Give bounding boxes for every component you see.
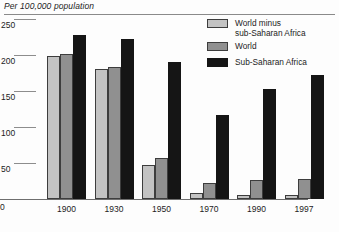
bar bbox=[121, 39, 134, 199]
bar bbox=[108, 67, 121, 199]
bar bbox=[203, 183, 216, 199]
x-axis-line bbox=[0, 199, 308, 200]
bar bbox=[216, 115, 229, 199]
bar bbox=[237, 195, 250, 199]
x-axis-tick-label: 1930 bbox=[94, 204, 134, 214]
chart-container: Per 100,000 population World minus sub-S… bbox=[0, 0, 339, 232]
y-axis-tick-label: 200 bbox=[1, 56, 25, 66]
plot-area: 50100150200250 0 19001930195019701990199… bbox=[25, 19, 333, 199]
bar-group bbox=[142, 19, 181, 199]
bar bbox=[95, 69, 108, 199]
header-divider bbox=[4, 14, 335, 15]
x-axis-tick-label: 1997 bbox=[284, 204, 324, 214]
bar-group bbox=[95, 19, 134, 199]
bar bbox=[250, 180, 263, 199]
bar bbox=[47, 56, 60, 199]
bar bbox=[298, 179, 311, 199]
y-axis-unit-label: Per 100,000 population bbox=[4, 1, 94, 11]
bar bbox=[190, 193, 203, 199]
bar bbox=[263, 89, 276, 199]
bar bbox=[285, 195, 298, 199]
x-axis-tick-label: 1900 bbox=[47, 204, 87, 214]
bar-group bbox=[237, 19, 276, 199]
bar bbox=[311, 75, 324, 199]
bar bbox=[60, 54, 73, 199]
bar-group bbox=[47, 19, 86, 199]
bar bbox=[168, 62, 181, 199]
bar bbox=[142, 165, 155, 199]
y-axis-tick-label: 250 bbox=[1, 20, 25, 30]
x-axis-tick-label: 1970 bbox=[189, 204, 229, 214]
x-axis-tick-label: 1950 bbox=[142, 204, 182, 214]
y-axis-tick-label-zero: 0 bbox=[0, 202, 5, 212]
bar bbox=[155, 158, 168, 199]
y-axis-tick-label: 100 bbox=[1, 128, 25, 138]
x-axis-tick-label: 1990 bbox=[237, 204, 277, 214]
y-axis-tick-label: 50 bbox=[1, 164, 25, 174]
bar-group bbox=[285, 19, 324, 199]
y-axis-tick-label: 150 bbox=[1, 92, 25, 102]
bar bbox=[73, 35, 86, 199]
bar-group bbox=[190, 19, 229, 199]
